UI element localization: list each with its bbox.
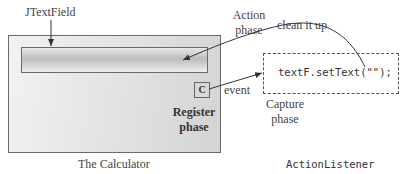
clean-it-up-label: clean it up (277, 18, 327, 33)
calculator-caption: The Calculator (78, 157, 150, 172)
register-phase-line2: phase (164, 120, 224, 135)
clear-button[interactable]: C (194, 82, 210, 98)
action-phase-line2: phase (224, 23, 274, 38)
action-phase-label: Action phase (224, 8, 274, 38)
capture-phase-label: Capture phase (260, 97, 310, 127)
capture-phase-line1: Capture (260, 97, 310, 112)
jtextfield-label: JTextField (25, 5, 76, 20)
register-phase-label: Register phase (164, 105, 224, 135)
action-phase-line1: Action (224, 8, 274, 23)
capture-phase-line2: phase (260, 112, 310, 127)
event-label: event (224, 83, 250, 98)
register-phase-line1: Register (164, 105, 224, 120)
settext-code: textF.setText(""); (278, 66, 392, 78)
listener-caption: ActionListener (286, 158, 375, 170)
jtextfield-display[interactable] (21, 47, 208, 73)
